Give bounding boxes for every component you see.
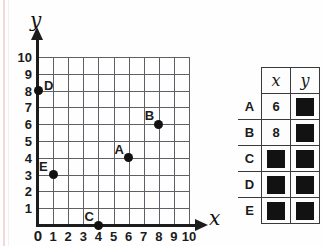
- y-axis-line: [36, 38, 39, 226]
- x-tick-label: 2: [60, 230, 76, 243]
- x-axis-label: x: [209, 206, 220, 230]
- grid-line-vertical: [114, 57, 115, 225]
- y-tick-label: 9: [12, 68, 32, 81]
- table-body: A6B8CDE: [238, 94, 320, 224]
- redacted-value-box: [296, 124, 314, 142]
- data-point-d: [34, 86, 43, 95]
- grid-line-horizontal: [38, 175, 189, 176]
- y-tick-label: 7: [12, 101, 32, 114]
- row-header-d: D: [238, 172, 262, 198]
- cell-b-y[interactable]: [291, 120, 320, 146]
- redacted-value-box: [267, 176, 285, 194]
- grid-line-vertical: [159, 57, 160, 225]
- table-row: B8: [238, 120, 320, 146]
- y-tick-label: 1: [12, 202, 32, 215]
- column-header-y: y: [291, 68, 320, 94]
- y-axis-label: y: [30, 8, 41, 32]
- grid-line-horizontal: [38, 191, 189, 192]
- origin-tick-label: 0: [30, 229, 46, 242]
- row-header-a: A: [238, 94, 262, 120]
- y-tick-label: 10: [12, 51, 32, 64]
- y-tick-label: 6: [12, 118, 32, 131]
- cell-d-y[interactable]: [291, 172, 320, 198]
- grid-line-vertical: [144, 57, 145, 225]
- data-point-c: [94, 221, 103, 230]
- table-row: E: [238, 198, 320, 224]
- y-tick-label: 8: [12, 85, 32, 98]
- redacted-value-box: [267, 150, 285, 168]
- point-label-c: C: [84, 210, 93, 223]
- table-row: A6: [238, 94, 320, 120]
- coordinates-table: x y A6B8CDE: [238, 67, 317, 223]
- grid-line-vertical: [174, 57, 175, 225]
- x-tick-label: 7: [136, 230, 152, 243]
- x-tick-label: 6: [121, 230, 137, 243]
- x-tick-label: 8: [151, 230, 167, 243]
- x-tick-label: 3: [75, 230, 91, 243]
- x-tick-label: 10: [181, 230, 197, 243]
- y-tick-label: 2: [12, 185, 32, 198]
- redacted-value-box: [296, 150, 314, 168]
- grid-lines: [38, 57, 189, 225]
- data-point-b: [154, 120, 163, 129]
- point-label-b: B: [145, 109, 154, 122]
- cell-d-x[interactable]: [262, 172, 291, 198]
- x-tick-label: 5: [106, 230, 122, 243]
- y-tick-label: 3: [12, 169, 32, 182]
- cell-c-x[interactable]: [262, 146, 291, 172]
- cell-c-y[interactable]: [291, 146, 320, 172]
- x-axis-line: [36, 224, 196, 227]
- y-tick-label: 4: [12, 152, 32, 165]
- column-header-x: x: [262, 68, 291, 94]
- cell-e-x[interactable]: [262, 198, 291, 224]
- row-header-e: E: [238, 198, 262, 224]
- redacted-value-box: [267, 202, 285, 220]
- grid-line-vertical: [189, 57, 190, 225]
- table-row: C: [238, 146, 320, 172]
- y-tick-label: 5: [12, 135, 32, 148]
- cell-b-x[interactable]: 8: [262, 120, 291, 146]
- point-label-a: A: [115, 143, 124, 156]
- cell-a-x[interactable]: 6: [262, 94, 291, 120]
- coordinate-plane: y x 10987654321012345678910 ABCDE: [0, 0, 225, 246]
- row-header-c: C: [238, 146, 262, 172]
- table: x y A6B8CDE: [238, 67, 320, 224]
- redacted-value-box: [296, 98, 314, 116]
- grid-line-vertical: [129, 57, 130, 225]
- x-tick-label: 1: [45, 230, 61, 243]
- row-header-b: B: [238, 120, 262, 146]
- table-header-row: x y: [238, 68, 320, 94]
- cell-e-y[interactable]: [291, 198, 320, 224]
- table-row: D: [238, 172, 320, 198]
- cell-a-y[interactable]: [291, 94, 320, 120]
- grid-line-horizontal: [38, 208, 189, 209]
- grid-line-horizontal: [38, 158, 189, 159]
- x-tick-label: 4: [90, 230, 106, 243]
- x-tick-label: 9: [166, 230, 182, 243]
- point-label-e: E: [39, 160, 48, 173]
- redacted-value-box: [296, 176, 314, 194]
- data-point-e: [49, 170, 58, 179]
- redacted-value-box: [296, 202, 314, 220]
- table-corner-cell: [238, 68, 262, 94]
- point-label-d: D: [44, 79, 53, 92]
